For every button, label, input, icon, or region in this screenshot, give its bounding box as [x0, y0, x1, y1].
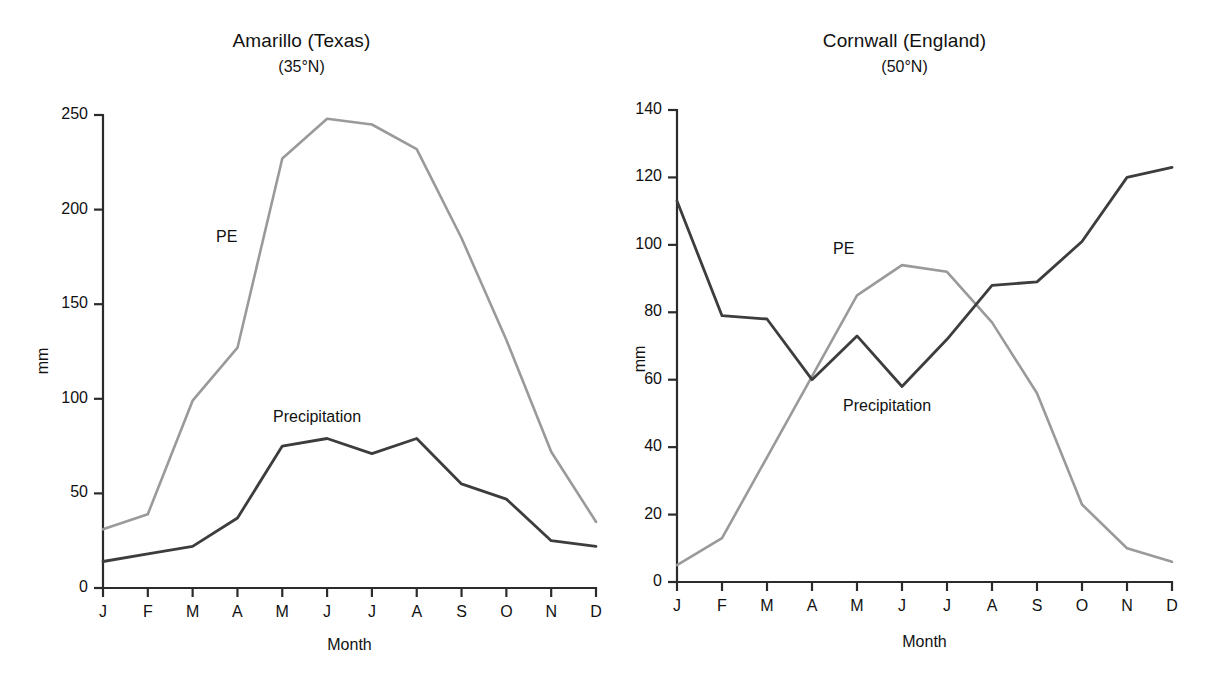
x-tick-label: F	[133, 603, 163, 621]
series-line-precipitation	[677, 167, 1172, 386]
y-tick-label: 250	[32, 105, 88, 123]
y-tick-label: 140	[606, 100, 662, 118]
y-tick-label: 0	[32, 578, 88, 596]
y-tick-label: 150	[32, 294, 88, 312]
x-tick-label: S	[1022, 597, 1052, 615]
y-tick-label: 40	[606, 437, 662, 455]
y-tick-label: 100	[32, 389, 88, 407]
x-tick-label: J	[662, 597, 692, 615]
x-tick-label: J	[88, 603, 118, 621]
x-tick-label: O	[1067, 597, 1097, 615]
y-tick-label: 50	[32, 483, 88, 501]
y-tick-label: 120	[606, 167, 662, 185]
y-tick-label: 80	[606, 302, 662, 320]
y-axis-label-cornwall: mm	[631, 346, 649, 373]
x-tick-label: N	[536, 603, 566, 621]
x-tick-label: M	[178, 603, 208, 621]
y-tick-label: 20	[606, 505, 662, 523]
y-tick-label: 100	[606, 235, 662, 253]
chart-panel-cornwall: Cornwall (England) (50°N) mm Month PE Pr…	[603, 0, 1206, 675]
series-line-pe	[103, 119, 596, 530]
x-tick-label: A	[797, 597, 827, 615]
x-axis-label-cornwall: Month	[677, 633, 1172, 651]
series-label-precipitation-cornwall: Precipitation	[843, 397, 931, 415]
series-label-pe-amarillo: PE	[216, 228, 237, 246]
series-label-pe-cornwall: PE	[833, 240, 854, 258]
x-tick-label: J	[312, 603, 342, 621]
x-tick-label: A	[222, 603, 252, 621]
x-tick-label: O	[491, 603, 521, 621]
y-tick-label: 0	[606, 572, 662, 590]
y-axis-label-amarillo: mm	[34, 348, 52, 375]
series-line-precipitation	[103, 439, 596, 562]
x-tick-label: J	[357, 603, 387, 621]
series-line-pe	[677, 265, 1172, 565]
y-tick-label: 60	[606, 370, 662, 388]
x-tick-label: M	[842, 597, 872, 615]
x-tick-label: A	[402, 603, 432, 621]
x-tick-label: N	[1112, 597, 1142, 615]
plot-area-cornwall	[603, 0, 1206, 675]
chart-panel-amarillo: Amarillo (Texas) (35°N) mm Month PE Prec…	[0, 0, 603, 675]
plot-area-amarillo	[0, 0, 603, 675]
x-tick-label: J	[932, 597, 962, 615]
x-tick-label: J	[887, 597, 917, 615]
x-tick-label: F	[707, 597, 737, 615]
x-tick-label: A	[977, 597, 1007, 615]
series-label-precipitation-amarillo: Precipitation	[273, 408, 361, 426]
y-tick-label: 200	[32, 200, 88, 218]
x-tick-label: M	[267, 603, 297, 621]
figure-root: Amarillo (Texas) (35°N) mm Month PE Prec…	[0, 0, 1206, 675]
x-tick-label: S	[447, 603, 477, 621]
x-tick-label: M	[752, 597, 782, 615]
x-axis-label-amarillo: Month	[103, 636, 596, 654]
x-tick-label: D	[1157, 597, 1187, 615]
